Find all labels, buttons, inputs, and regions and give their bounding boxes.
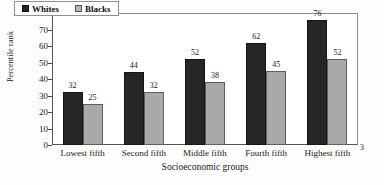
legend-swatch-icon: [75, 5, 82, 12]
bar-whites-highest-fifth: [307, 20, 327, 145]
bar-whites-middle-fifth: [185, 59, 205, 145]
y-axis-tick-label: 10: [26, 125, 48, 134]
legend-label: Blacks: [85, 4, 111, 14]
y-axis-tick-label: 70: [26, 26, 48, 35]
bar-value-label: 52: [185, 48, 205, 57]
bar-value-label: 32: [144, 81, 164, 90]
legend-label: Whites: [32, 4, 59, 14]
footnote-marker: 3: [360, 143, 364, 152]
x-axis-tick-label: Second fifth: [113, 148, 174, 159]
legend-swatch-icon: [22, 5, 29, 12]
bar-blacks-second-fifth: [144, 92, 164, 145]
plot-area: 32254432523862457652: [52, 13, 358, 145]
legend-item-whites[interactable]: Whites: [22, 4, 59, 14]
y-axis-tick-label: 60: [26, 42, 48, 51]
bar-whites-lowest-fifth: [63, 92, 83, 145]
legend-item-blacks[interactable]: Blacks: [75, 4, 111, 14]
bar-whites-fourth-fifth: [246, 43, 266, 145]
bar-value-label: 44: [124, 61, 144, 70]
bar-blacks-highest-fifth: [327, 59, 347, 145]
bar-whites-second-fifth: [124, 72, 144, 145]
y-axis-tick-label: 20: [26, 108, 48, 117]
y-axis-tick-mark: [48, 145, 52, 146]
bar-blacks-fourth-fifth: [266, 71, 286, 145]
chart-figure: Percentile rank 01020304050607080 322544…: [0, 0, 384, 185]
x-axis-tick-label: Fourth fifth: [236, 148, 297, 159]
y-axis-tick-label: 40: [26, 75, 48, 84]
y-axis-tick-label: 30: [26, 92, 48, 101]
y-axis-tick-label: 50: [26, 59, 48, 68]
x-axis-title: Socioeconomic groups: [52, 162, 358, 172]
bar-value-label: 52: [327, 48, 347, 57]
x-axis-tick-label: Middle fifth: [174, 148, 235, 159]
y-axis-tick-labels: 01020304050607080: [24, 13, 48, 145]
y-axis-title: Percentile rank: [6, 25, 15, 89]
bar-value-label: 45: [266, 60, 286, 69]
bar-value-label: 76: [307, 9, 327, 18]
y-axis-tick-label: 0: [26, 141, 48, 150]
x-axis-tick-labels: Lowest fifthSecond fifthMiddle fifthFour…: [52, 148, 358, 160]
bar-value-label: 25: [83, 93, 103, 102]
x-axis-tick-label: Highest fifth: [297, 148, 358, 159]
bar-value-label: 32: [63, 81, 83, 90]
x-axis-tick-label: Lowest fifth: [52, 148, 113, 159]
bar-value-label: 38: [205, 71, 225, 80]
bar-blacks-middle-fifth: [205, 82, 225, 145]
chart-legend: WhitesBlacks: [14, 1, 119, 16]
bar-value-label: 62: [246, 32, 266, 41]
bar-blacks-lowest-fifth: [83, 104, 103, 145]
